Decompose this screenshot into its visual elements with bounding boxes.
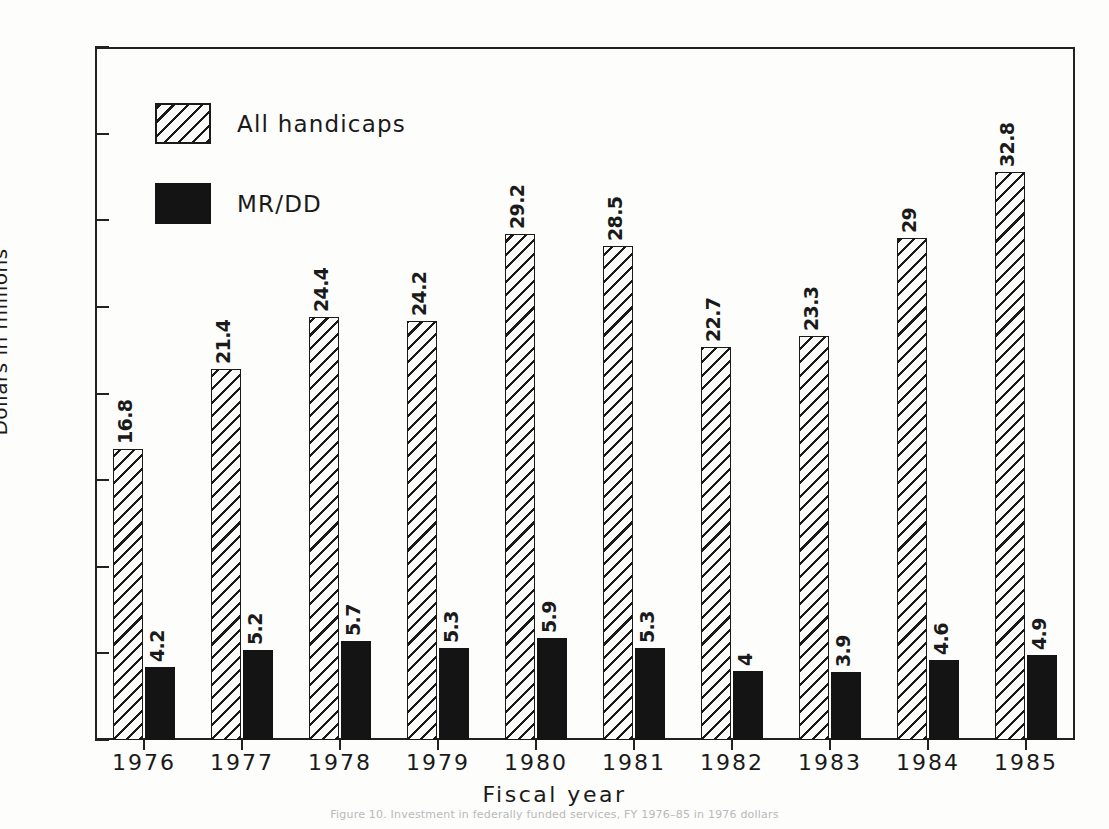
bar-value-label: 21.4	[212, 320, 234, 364]
bar-1983-all-handicaps: 23.3	[799, 336, 829, 740]
bar-1976-all-handicaps: 16.8	[113, 449, 143, 740]
x-tick-label-1984: 1984	[873, 750, 983, 775]
x-tick-label-1977: 1977	[187, 750, 297, 775]
x-tick-mark	[339, 740, 341, 750]
bar-value-label: 4.6	[930, 623, 952, 655]
y-tick-mark	[95, 46, 109, 48]
x-tick-label-1981: 1981	[579, 750, 689, 775]
bar-1984-all-handicaps: 29	[897, 238, 927, 740]
x-tick-label-1979: 1979	[383, 750, 493, 775]
x-tick-mark	[241, 740, 243, 750]
legend-label-all-handicaps: All handicaps	[237, 111, 406, 137]
x-tick-label-1976: 1976	[89, 750, 199, 775]
bar-value-label: 24.2	[408, 271, 430, 315]
x-tick-mark	[829, 740, 831, 750]
y-tick-mark	[95, 479, 109, 481]
x-tick-mark	[1025, 740, 1027, 750]
x-tick-mark	[731, 740, 733, 750]
bar-value-label: 4.2	[146, 630, 168, 662]
bar-1979-mr-dd: 5.3	[439, 648, 469, 740]
bar-value-label: 16.8	[114, 399, 136, 443]
legend-swatch-solid	[155, 183, 211, 224]
bar-1978-mr-dd: 5.7	[341, 641, 371, 740]
bar-1976-mr-dd: 4.2	[145, 667, 175, 740]
x-tick-mark	[535, 740, 537, 750]
bar-value-label: 5.7	[342, 604, 364, 636]
x-tick-mark	[633, 740, 635, 750]
x-tick-label-1983: 1983	[775, 750, 885, 775]
legend-swatch-hatched	[155, 103, 211, 144]
bar-value-label: 29.2	[506, 185, 528, 229]
legend-label-mr-dd: MR/DD	[237, 191, 322, 217]
bar-value-label: 28.5	[604, 197, 626, 241]
bar-value-label: 23.3	[800, 287, 822, 331]
bar-1980-all-handicaps: 29.2	[505, 234, 535, 740]
bar-value-label: 3.9	[832, 636, 854, 668]
x-tick-mark	[437, 740, 439, 750]
bar-1985-mr-dd: 4.9	[1027, 655, 1057, 740]
chart-page: Dollars in millions 0510152025303540 16.…	[0, 0, 1109, 829]
x-axis-title: Fiscal year	[0, 782, 1109, 807]
legend-item-mr-dd: MR/DD	[155, 183, 322, 224]
y-tick-mark	[95, 306, 109, 308]
y-tick-mark	[95, 393, 109, 395]
bar-1978-all-handicaps: 24.4	[309, 317, 339, 740]
bar-value-label: 24.4	[310, 268, 332, 312]
y-tick-mark	[95, 652, 109, 654]
bar-value-label: 5.3	[440, 611, 462, 643]
bar-value-label: 5.2	[244, 613, 266, 645]
bar-value-label: 29	[898, 207, 920, 232]
bar-1981-mr-dd: 5.3	[635, 648, 665, 740]
plot-area	[95, 47, 1075, 740]
x-tick-label-1978: 1978	[285, 750, 395, 775]
bar-1982-mr-dd: 4	[733, 671, 763, 740]
x-tick-label-1985: 1985	[971, 750, 1081, 775]
x-tick-mark	[143, 740, 145, 750]
y-tick-mark	[95, 133, 109, 135]
x-tick-label-1982: 1982	[677, 750, 787, 775]
bar-1977-all-handicaps: 21.4	[211, 369, 241, 740]
x-tick-label-1980: 1980	[481, 750, 591, 775]
bar-value-label: 5.3	[636, 611, 658, 643]
bar-1980-mr-dd: 5.9	[537, 638, 567, 740]
bar-value-label: 5.9	[538, 601, 560, 633]
x-tick-mark	[927, 740, 929, 750]
bar-1984-mr-dd: 4.6	[929, 660, 959, 740]
bar-1982-all-handicaps: 22.7	[701, 347, 731, 740]
legend-item-all-handicaps: All handicaps	[155, 103, 406, 144]
bar-value-label: 22.7	[702, 297, 724, 341]
bar-value-label: 4.9	[1028, 618, 1050, 650]
y-tick-mark	[95, 566, 109, 568]
bar-1985-all-handicaps: 32.8	[995, 172, 1025, 740]
y-tick-mark	[95, 219, 109, 221]
y-tick-mark	[95, 739, 109, 741]
y-axis-title: Dollars in millions	[0, 132, 12, 552]
bar-value-label: 32.8	[996, 122, 1018, 166]
bar-1979-all-handicaps: 24.2	[407, 321, 437, 740]
bar-1977-mr-dd: 5.2	[243, 650, 273, 740]
bar-value-label: 4	[734, 653, 756, 666]
figure-caption: Figure 10. Investment in federally funde…	[0, 808, 1109, 821]
bar-1983-mr-dd: 3.9	[831, 672, 861, 740]
bar-1981-all-handicaps: 28.5	[603, 246, 633, 740]
